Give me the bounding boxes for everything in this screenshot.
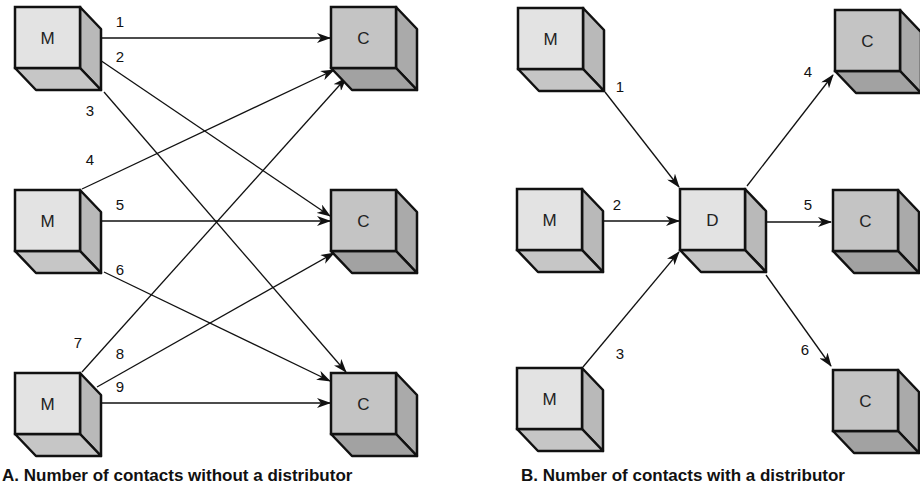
panel-a-caption: A. Number of contacts without a distribu… xyxy=(2,466,352,486)
contact-edge: 8 xyxy=(97,253,334,387)
contact-edge: 5 xyxy=(760,196,831,222)
contact-edge: 4 xyxy=(747,63,833,186)
node-b-m3: M xyxy=(517,368,603,451)
node-label: M xyxy=(40,212,54,231)
contact-edge: 6 xyxy=(104,261,330,381)
node-label: C xyxy=(357,212,369,231)
contact-edge: 4 xyxy=(82,70,334,189)
node-label: C xyxy=(859,392,871,411)
edge-number-label: 9 xyxy=(116,378,124,395)
edge-number-label: 8 xyxy=(116,345,124,362)
panel-b-nodes: MMMDCCC xyxy=(517,8,920,453)
arrow-line xyxy=(82,70,334,189)
contact-edge: 2 xyxy=(597,196,679,221)
arrow-line xyxy=(97,253,334,387)
node-b-d: D xyxy=(680,189,766,272)
contact-edge: 5 xyxy=(97,196,330,221)
node-label: M xyxy=(40,395,54,414)
edge-number-label: 2 xyxy=(613,196,621,213)
distribution-contacts-diagram: 123456789 123456 MMMCCC MMMDCCC xyxy=(0,0,920,494)
edge-number-label: 7 xyxy=(74,334,82,351)
edge-number-label: 2 xyxy=(116,48,124,65)
arrow-line xyxy=(766,275,831,366)
edge-number-label: 3 xyxy=(616,345,624,362)
edge-number-label: 5 xyxy=(116,196,124,213)
arrow-line xyxy=(82,78,346,372)
node-label: M xyxy=(40,29,54,48)
node-label: C xyxy=(859,212,871,231)
contact-edge: 1 xyxy=(605,78,679,187)
node-b-m1: M xyxy=(518,8,604,91)
node-label: M xyxy=(543,30,557,49)
contact-edge: 2 xyxy=(97,48,330,216)
node-a-m2: M xyxy=(15,190,101,273)
edge-number-label: 1 xyxy=(116,13,124,30)
node-b-m2: M xyxy=(517,189,603,272)
arrow-line xyxy=(747,75,833,186)
contact-edge: 9 xyxy=(97,378,330,403)
edge-number-label: 5 xyxy=(804,196,812,213)
node-a-c1: C xyxy=(331,7,417,90)
edge-number-label: 4 xyxy=(804,63,812,80)
node-label: D xyxy=(706,211,718,230)
arrow-line xyxy=(97,58,330,216)
contact-edge: 3 xyxy=(86,92,346,372)
contact-edge: 1 xyxy=(97,13,330,38)
panel-a-nodes: MMMCCC xyxy=(15,7,417,456)
panel-a-edges: 123456789 xyxy=(74,13,346,403)
panel-b-caption: B. Number of contacts with a distributor xyxy=(521,466,845,486)
node-label: C xyxy=(861,32,873,51)
node-a-m1: M xyxy=(15,7,101,90)
node-label: C xyxy=(357,395,369,414)
node-a-c3: C xyxy=(331,373,417,456)
node-a-c2: C xyxy=(331,190,417,273)
node-b-c2: C xyxy=(833,190,919,273)
contact-edge: 7 xyxy=(74,78,346,372)
arrow-line xyxy=(104,272,330,381)
edge-number-label: 1 xyxy=(616,78,624,95)
arrow-line xyxy=(605,92,679,187)
node-label: M xyxy=(542,390,556,409)
edge-number-label: 6 xyxy=(801,341,809,358)
contact-edge: 6 xyxy=(766,275,831,366)
node-label: M xyxy=(542,211,556,230)
node-b-c3: C xyxy=(833,370,919,453)
edge-number-label: 6 xyxy=(116,261,124,278)
edge-number-label: 4 xyxy=(86,151,94,168)
edge-number-label: 3 xyxy=(86,102,94,119)
node-a-m3: M xyxy=(15,373,101,456)
node-label: C xyxy=(357,29,369,48)
node-b-c1: C xyxy=(835,10,920,93)
